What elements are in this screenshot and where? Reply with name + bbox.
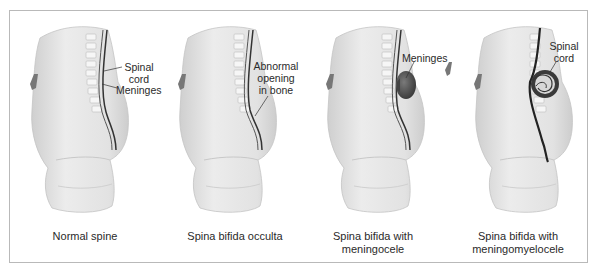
label-line: Abnormal	[252, 60, 300, 72]
caption-line: Spina bifida with	[318, 230, 428, 243]
label-line: Spinal	[121, 61, 157, 73]
caption-occulta: Spina bifida occulta	[170, 230, 300, 243]
caption-normal-spine: Normal spine	[40, 230, 130, 243]
label-line: Spinal	[546, 40, 582, 52]
label-line: Meninges	[116, 84, 166, 96]
panel-occulta-illustration	[178, 27, 276, 213]
label-line: Meninges	[402, 52, 452, 64]
label-meningomyelocele-spinal-cord: Spinal cord	[546, 40, 582, 64]
caption-meningomyelocele: Spina bifida with meningomyelocele	[458, 230, 578, 256]
caption-line: Normal spine	[40, 230, 130, 243]
caption-line: meningomyelocele	[458, 243, 578, 256]
label-line: opening	[252, 72, 300, 84]
caption-meningocele: Spina bifida with meningocele	[318, 230, 428, 256]
label-normal-spinal-cord: Spinal cord	[121, 61, 157, 85]
label-occulta-abnormal-opening: Abnormal opening in bone	[252, 60, 300, 96]
label-meningocele-meninges: Meninges	[402, 52, 452, 64]
caption-line: Spina bifida occulta	[170, 230, 300, 243]
label-line: cord	[546, 52, 582, 64]
label-normal-meninges: Meninges	[116, 84, 166, 96]
label-line: in bone	[252, 84, 300, 96]
panel-normal-illustration	[30, 27, 128, 213]
caption-line: meningocele	[318, 243, 428, 256]
caption-line: Spina bifida with	[458, 230, 578, 243]
